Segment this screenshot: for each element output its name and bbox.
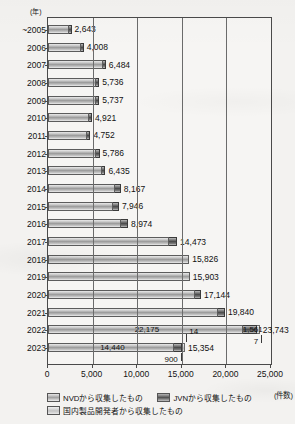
y-axis-label-2019: 2019 (27, 272, 46, 282)
x-axis-tick-5000 (92, 365, 93, 368)
legend-swatch-jvn-icon (157, 393, 170, 402)
bar-value-label: 15,354 (188, 343, 214, 353)
y-axis-label-lte2005: ~2005 (22, 25, 46, 35)
bar-row: 20076,484 (48, 59, 271, 71)
stacked-bar: 4,008 (48, 43, 84, 52)
y-axis-label-2021: 2021 (27, 308, 46, 318)
stacked-bar: 15,826 (48, 255, 189, 264)
stacked-bar: 6,435 (48, 166, 105, 175)
bar-row: 201915,903 (48, 271, 271, 283)
y-axis-label-2015: 2015 (27, 202, 46, 212)
bar-value-label: 8,167 (124, 184, 145, 194)
bar-value-label: 4,752 (93, 130, 114, 140)
y-axis-label-2016: 2016 (27, 219, 46, 229)
bar-value-label: 6,484 (109, 60, 130, 70)
x-axis-label-10000: 10,000 (123, 369, 149, 379)
bar-segment-jvn (121, 219, 128, 228)
y-axis-label-2008: 2008 (27, 78, 46, 88)
bar-segment-jvn (218, 308, 225, 317)
bar-segment-nvd (48, 25, 69, 34)
segment-callout-jvn: 900 (164, 355, 177, 364)
legend-swatch-domestic-icon (47, 406, 60, 415)
bar-segment-nvd (48, 255, 189, 264)
bar-row: 201815,826 (48, 254, 271, 266)
legend-row-2: 国内製品開発者から収集したもの (47, 405, 295, 416)
bar-segment-nvd (48, 237, 169, 246)
bar-segment-nvd (48, 290, 195, 299)
bar-row: 202017,144 (48, 289, 271, 301)
plot-area: ~20052,64320064,00820076,48420085,736200… (47, 17, 272, 365)
stacked-bar: 4,752 (48, 131, 90, 140)
bar-row: 20114,752 (48, 130, 271, 142)
bar-row: 20136,435 (48, 165, 271, 177)
bar-segment-jvn (102, 166, 106, 175)
segment-callout-dom: 14 (189, 327, 198, 336)
x-axis-label-5000: 5,000 (81, 369, 102, 379)
legend-row-1: NVDから収集したもの JVNから収集したもの (47, 392, 295, 403)
bar-value-label: 5,786 (103, 148, 124, 158)
bar-segment-jvn (96, 96, 99, 105)
legend-item-domestic: 国内製品開発者から収集したもの (47, 405, 183, 416)
stacked-bar: 14,473 (48, 237, 177, 246)
y-axis-label-2013: 2013 (27, 166, 46, 176)
bar-row: 202315,35414,44090014 (48, 342, 271, 354)
stacked-bar: 5,737 (48, 96, 99, 105)
stacked-bar: 2,643 (48, 25, 72, 34)
gridline-5000 (93, 18, 94, 364)
segment-label-jvn: 1,561 (243, 325, 263, 334)
bar-segment-nvd (48, 43, 81, 52)
stacked-bar: 4,921 (48, 113, 92, 122)
bar-segment-jvn (89, 113, 92, 122)
bar-row: ~20052,643 (48, 24, 271, 36)
x-axis-label-0: 0 (45, 369, 50, 379)
bar-value-label: 4,921 (95, 113, 116, 123)
x-axis-tick-20000 (225, 365, 226, 368)
bar-row: 20148,167 (48, 183, 271, 195)
bar-segment-nvd (48, 96, 96, 105)
y-axis-label-2020: 2020 (27, 290, 46, 300)
bar-row: 201714,473 (48, 236, 271, 248)
x-axis-tick-0 (47, 365, 48, 368)
bar-segment-nvd (48, 272, 190, 281)
bar-rows-container: ~20052,64320064,00820076,48420085,736200… (48, 18, 271, 364)
y-axis-label-2009: 2009 (27, 96, 46, 106)
stacked-bar: 5,736 (48, 78, 99, 87)
stacked-bar: 6,484 (48, 60, 106, 69)
bar-segment-nvd (48, 184, 115, 193)
legend-label-nvd: NVDから収集したもの (63, 392, 143, 403)
bar-value-label: 4,008 (87, 42, 108, 52)
bar-segment-nvd (48, 149, 96, 158)
bar-segment-jvn (169, 237, 177, 246)
y-axis-label-2018: 2018 (27, 255, 46, 265)
bar-row: 202119,840 (48, 307, 271, 319)
x-axis-tick-15000 (181, 365, 182, 368)
legend-item-jvn: JVNから収集したもの (157, 392, 252, 403)
bar-segment-nvd (48, 60, 103, 69)
legend-item-nvd: NVDから収集したもの (47, 392, 143, 403)
bar-value-label: 19,840 (228, 307, 254, 317)
bar-row: 20157,946 (48, 201, 271, 213)
x-axis-tick-25000 (270, 365, 271, 368)
stacked-bar: 8,167 (48, 184, 121, 193)
chart-legend: NVDから収集したもの JVNから収集したもの 国内製品開発者から収集したもの (47, 392, 295, 418)
y-axis-label-2017: 2017 (27, 237, 46, 247)
stacked-bar: 7,946 (48, 202, 119, 211)
x-axis-label-25000: 25,000 (257, 369, 283, 379)
bar-segment-nvd (48, 219, 121, 228)
segment-label-nvd: 22,175 (135, 325, 159, 334)
bar-segment-jvn (81, 43, 84, 52)
legend-swatch-nvd-icon (47, 393, 60, 402)
segment-label-nvd: 14,440 (100, 343, 124, 352)
bar-value-label: 15,826 (192, 254, 218, 264)
bar-segment-jvn (69, 25, 72, 34)
bar-segment-jvn (113, 202, 119, 211)
bar-segment-jvn (87, 131, 90, 140)
bar-value-label: 7,946 (122, 201, 143, 211)
y-axis-label-2014: 2014 (27, 184, 46, 194)
gridline-25000 (271, 18, 272, 364)
bar-row: 20085,736 (48, 77, 271, 89)
vulnerability-count-bar-chart: (年) ~20052,64320064,00820076,48420085,73… (0, 0, 295, 424)
y-axis-label-2006: 2006 (27, 43, 46, 53)
bar-segment-nvd (48, 308, 218, 317)
y-axis-label-2010: 2010 (27, 113, 46, 123)
